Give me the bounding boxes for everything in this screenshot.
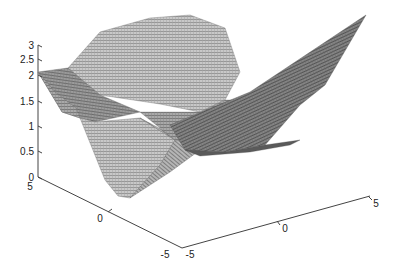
z-tick-label: 2 (28, 70, 34, 81)
y-tick-label: 5 (27, 181, 33, 192)
z-tick (38, 59, 42, 61)
z-tick-label: 1.5 (20, 96, 34, 107)
z-tick (38, 126, 42, 128)
z-tick (38, 45, 42, 47)
x-tick-label: 0 (282, 223, 288, 234)
y-tick-label: -5 (161, 249, 170, 260)
z-tick-label: 1 (28, 121, 34, 132)
x-axis (182, 196, 370, 248)
y-axis (38, 177, 182, 248)
z-tick (38, 151, 42, 153)
z-tick-label: 0.5 (20, 146, 34, 157)
x-tick-label: 5 (373, 198, 379, 209)
x-tick (368, 196, 372, 200)
z-tick-label: 2.5 (20, 54, 34, 65)
z-tick (38, 177, 42, 179)
surface-plot: 32.521.510.5050-5-505 (0, 0, 401, 276)
z-tick-label: 3 (28, 40, 34, 51)
y-tick-label: 0 (97, 213, 103, 224)
x-tick-label: -5 (186, 249, 195, 260)
y-tick (108, 209, 112, 212)
z-tick (38, 101, 42, 103)
